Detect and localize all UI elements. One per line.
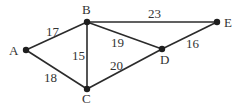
node-labels: A B C D E: [9, 2, 232, 104]
node-a-dot: [23, 47, 29, 53]
node-b-dot: [84, 19, 90, 25]
edge-b-d: [87, 22, 162, 49]
node-b-label: B: [82, 2, 91, 17]
node-c-label: C: [82, 91, 91, 104]
edge-weights: 17 18 15 23 19 20 16: [44, 6, 200, 85]
node-a-label: A: [9, 43, 19, 58]
node-d-label: D: [160, 52, 169, 67]
weight-d-e: 16: [186, 36, 200, 51]
node-e-label: E: [224, 15, 232, 30]
weight-a-b: 17: [46, 24, 60, 39]
node-e-dot: [214, 19, 220, 25]
weight-c-d: 20: [110, 58, 123, 73]
weight-b-e: 23: [148, 6, 161, 21]
weight-b-c: 15: [72, 48, 85, 63]
edge-c-d: [87, 49, 162, 89]
weight-b-d: 19: [111, 35, 124, 50]
weight-a-c: 18: [44, 70, 57, 85]
weighted-graph-diagram: 17 18 15 23 19 20 16 A B C D E: [0, 0, 244, 104]
